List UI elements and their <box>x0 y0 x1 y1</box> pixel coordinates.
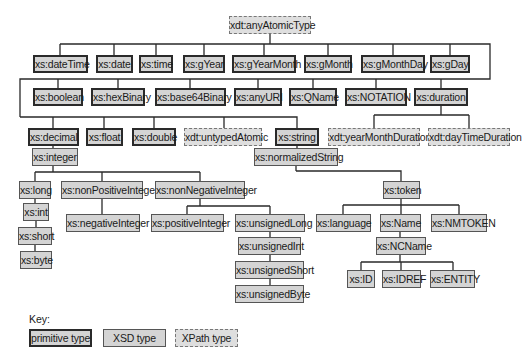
node-xs-hexbinary: xs:hexBinary <box>91 88 145 106</box>
node-xs-nonpositiveinteger: xs:nonPositiveInteger <box>61 181 143 199</box>
node-xs-long: xs:long <box>19 181 51 199</box>
node-xs-unsignedbyte: xs:unsignedByte <box>235 285 304 303</box>
node-xdt-yearmonthduration: xdt:yearMonthDuration <box>328 128 420 146</box>
node-xs-decimal: xs:decimal <box>28 128 79 146</box>
node-xs-boolean: xs:boolean <box>33 88 83 106</box>
node-xs-nmtoken: xs:NMTOKEN <box>431 214 487 232</box>
node-xs-gyearmonth: xs:gYearMonth <box>232 55 296 73</box>
node-xs-notation: xs:NOTATION <box>345 88 407 106</box>
node-xs-idref: xs:IDREF <box>382 270 421 288</box>
node-xdt-daytimeduration: xdt:dayTimeDuration <box>428 128 510 146</box>
legend-xpath-type: XPath type <box>175 329 238 347</box>
legend-xsd-type: XSD type <box>103 329 166 347</box>
node-xs-id: xs:ID <box>347 270 375 288</box>
node-xs-float: xs:float <box>86 128 123 146</box>
node-xs-nonnegativeinteger: xs:nonNegativeInteger <box>155 181 245 199</box>
node-xs-gday: xs:gDay <box>430 55 470 73</box>
node-xs-gyear: xs:gYear <box>183 55 225 73</box>
node-xs-string: xs:string <box>275 128 319 146</box>
node-xs-short: xs:short <box>18 227 52 245</box>
node-xs-qname: xs:QName <box>289 88 337 106</box>
node-xs-ncname: xs:NCName <box>376 237 426 255</box>
node-xs-datetime: xs:dateTime <box>33 55 88 73</box>
node-xs-unsignedlong: xs:unsignedLong <box>235 214 305 232</box>
node-xs-language: xs:language <box>316 214 371 232</box>
legend-primitive-type: primitive type <box>29 329 92 347</box>
node-xs-gmonth: xs:gMonth <box>304 55 352 73</box>
node-xs-unsignedshort: xs:unsignedShort <box>235 261 304 279</box>
legend-title: Key: <box>29 313 50 325</box>
node-xs-normalizedstring: xs:normalizedString <box>254 148 338 166</box>
node-xs-time: xs:time <box>139 55 173 73</box>
node-xs-entity: xs:ENTITY <box>430 270 475 288</box>
node-xs-base64binary: xs:base64Binary <box>155 88 226 106</box>
node-xs-byte: xs:byte <box>20 251 52 269</box>
node-xs-anyuri: xs:anyURI <box>234 88 282 106</box>
node-xs-duration: xs:duration <box>414 88 468 106</box>
node-xdt-anyatomictype: xdt:anyAtomicType <box>229 16 311 34</box>
node-xs-gmonthday: xs:gMonthDay <box>361 55 425 73</box>
node-xs-negativeinteger: xs:negativeInteger <box>66 214 140 232</box>
node-xs-int: xs:int <box>23 203 49 221</box>
node-xs-positiveinteger: xs:positiveInteger <box>151 214 224 232</box>
node-xs-date: xs:date <box>96 55 133 73</box>
node-xs-name: xs:Name <box>380 214 421 232</box>
node-xdt-untypedatomic: xdt:untypedAtomic <box>184 128 262 146</box>
node-xs-unsignedint: xs:unsignedInt <box>238 237 301 255</box>
node-xs-token: xs:token <box>383 181 420 199</box>
node-xs-integer: xs:integer <box>32 148 78 166</box>
type-hierarchy-diagram: xdt:anyAtomicType xs:dateTime xs:date xs… <box>0 0 528 363</box>
node-xs-double: xs:double <box>132 128 176 146</box>
